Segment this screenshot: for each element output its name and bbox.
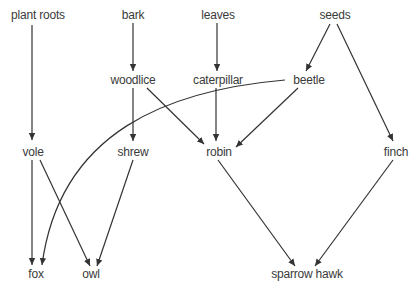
edge-robin-sparrow-hawk	[218, 160, 295, 266]
node-owl: owl	[82, 267, 99, 281]
edge-shrew-owl	[97, 160, 133, 266]
node-shrew: shrew	[117, 145, 148, 159]
node-finch: finch	[384, 145, 408, 159]
node-plant-roots: plant roots	[11, 8, 65, 22]
edge-seeds-beetle	[306, 24, 330, 71]
node-leaves: leaves	[201, 8, 235, 22]
food-web-diagram: plant roots bark leaves seeds woodlice c…	[0, 0, 417, 293]
node-fox: fox	[28, 267, 43, 281]
edge-vole-owl	[40, 160, 90, 266]
node-vole: vole	[22, 145, 43, 159]
edge-finch-sparrow-hawk	[315, 160, 393, 266]
edge-beetle-fox	[42, 80, 285, 265]
node-robin: robin	[206, 145, 232, 159]
edge-seeds-finch	[337, 24, 393, 141]
node-caterpillar: caterpillar	[193, 73, 243, 87]
node-seeds: seeds	[319, 8, 350, 22]
node-sparrow-hawk: sparrow hawk	[271, 267, 343, 281]
node-woodlice: woodlice	[110, 73, 155, 87]
edge-beetle-robin	[236, 88, 298, 147]
node-beetle: beetle	[293, 73, 325, 87]
node-bark: bark	[122, 8, 145, 22]
